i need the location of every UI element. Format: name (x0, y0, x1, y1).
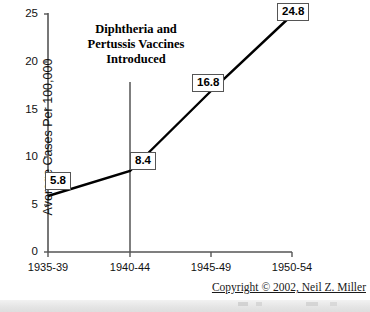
page-scan-artifacts (0, 300, 370, 312)
annotation-line-1: Diphtheria and (60, 22, 212, 37)
data-label-1940-44: 8.4 (130, 152, 156, 170)
x-tick-label-1940-44: 1940-44 (90, 261, 170, 273)
y-tick-label-25: 25 (12, 7, 38, 19)
y-axis-title: Average Cases Per 100,000 (41, 17, 55, 257)
x-tick-label-1950-54: 1950-54 (252, 261, 332, 273)
y-tick-label-20: 20 (12, 55, 38, 67)
vaccine-introduction-annotation: Diphtheria and Pertussis Vaccines Introd… (60, 22, 212, 67)
y-tick-label-15: 15 (12, 103, 38, 115)
copyright-notice: Copyright © 2002, Neil Z. Miller (212, 281, 366, 293)
data-label-1945-49: 16.8 (192, 74, 224, 92)
y-tick-label-0: 0 (12, 245, 38, 257)
data-label-1935-39: 5.8 (45, 172, 71, 190)
chart-figure: Average Cases Per 100,000 25 20 15 10 5 … (0, 0, 370, 312)
y-tick-label-5: 5 (12, 198, 38, 210)
data-label-1950-54: 24.8 (277, 3, 309, 21)
y-tick-label-10: 10 (12, 150, 38, 162)
x-tick-label-1945-49: 1945-49 (171, 261, 251, 273)
annotation-line-2: Pertussis Vaccines (60, 37, 212, 52)
annotation-line-3: Introduced (60, 52, 212, 67)
x-tick-label-1935-39: 1935-39 (8, 261, 88, 273)
